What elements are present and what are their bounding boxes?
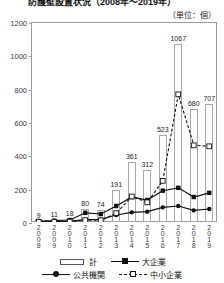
x-axis-labels: 2008200920102011201220132014201520162017…: [31, 224, 217, 254]
line-filled-circle-swatch-icon: [42, 270, 70, 279]
x-axis-label: 2011: [82, 224, 89, 248]
legend-item-public-institution[interactable]: 公共機関: [42, 269, 105, 280]
y-axis-tick: [29, 123, 32, 124]
x-axis-label: 2016: [159, 224, 166, 248]
dashed-open-square-swatch-icon: [119, 270, 147, 279]
y-axis-tick-label: 200: [14, 185, 27, 194]
x-axis-label: 2018: [190, 224, 197, 248]
legend-label-sme: 中小企業: [150, 269, 182, 280]
legend-item-large-enterprise[interactable]: 大企業: [111, 256, 166, 267]
chart-title-band: 防護壁設置状況（2008年～2019年）: [0, 0, 224, 7]
y-axis-tick-label: 600: [14, 119, 27, 128]
x-axis-label: 2019: [206, 224, 213, 248]
y-axis-tick-label: 800: [14, 85, 27, 94]
x-axis-label: 2010: [66, 224, 73, 248]
legend-label-public-institution: 公共機関: [73, 269, 105, 280]
y-axis-tick: [29, 190, 32, 191]
chart-title: 防護壁設置状況（2008年～2019年）: [28, 0, 176, 7]
y-axis-tick: [29, 156, 32, 157]
plot-area: 020040060080010001200: [31, 22, 217, 222]
x-axis-label: 2009: [51, 224, 58, 248]
legend-item-total[interactable]: 計: [58, 256, 97, 267]
x-axis-label: 2015: [144, 224, 151, 248]
bar-swatch-icon: [58, 257, 86, 266]
legend-item-sme[interactable]: 中小企業: [119, 269, 182, 280]
legend-label-large-enterprise: 大企業: [142, 256, 166, 267]
x-axis-label: 2017: [175, 224, 182, 248]
x-axis-label: 2014: [128, 224, 135, 248]
y-axis-tick-label: 1200: [10, 19, 27, 28]
y-axis-tick: [29, 23, 32, 24]
y-axis-tick-label: 400: [14, 152, 27, 161]
legend-label-total: 計: [89, 256, 97, 267]
chart-legend: 計 大企業 公共機関 中小企業: [0, 256, 224, 280]
y-axis-tick-label: 1000: [10, 52, 27, 61]
unit-label: （単位：個）: [168, 9, 216, 20]
chart-container: 防護壁設置状況（2008年～2019年） （単位：個） 020040060080…: [0, 0, 224, 283]
x-axis-label: 2008: [35, 224, 42, 248]
legend-row-1: 計 大企業: [58, 256, 166, 267]
line-filled-square-swatch-icon: [111, 257, 139, 266]
y-axis-tick: [29, 90, 32, 91]
y-axis-tick: [29, 56, 32, 57]
legend-row-2: 公共機関 中小企業: [42, 269, 182, 280]
x-axis-label: 2013: [113, 224, 120, 248]
y-axis-tick-label: 0: [23, 219, 27, 228]
x-axis-label: 2012: [97, 224, 104, 248]
